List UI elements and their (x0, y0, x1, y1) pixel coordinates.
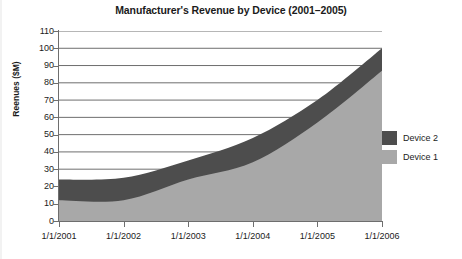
y-axis-tick-label: 30 (28, 165, 54, 174)
y-axis-tick-mark (53, 66, 59, 67)
plot-area (59, 31, 382, 221)
x-axis-tick-mark (59, 222, 60, 227)
chart-title: Manufacturer's Revenue by Device (2001–2… (0, 4, 462, 16)
y-axis-tick-mark (53, 169, 59, 170)
y-axis-tick-label: 40 (28, 147, 54, 156)
y-axis-tick-mark (53, 135, 59, 136)
legend-label: Device 2 (403, 133, 438, 143)
x-axis-tick-mark (253, 222, 254, 227)
y-axis-tick-mark (53, 186, 59, 187)
y-axis-tick-mark (53, 100, 59, 101)
legend-swatch-icon (382, 150, 397, 164)
x-axis-tick-mark (124, 222, 125, 227)
x-axis-tick-label: 1/1/2005 (285, 231, 349, 241)
legend-swatch-icon (382, 131, 397, 145)
x-axis-tick-label: 1/1/2001 (27, 231, 91, 241)
y-axis-tick-mark (53, 152, 59, 153)
y-axis-tick-mark (53, 48, 59, 49)
y-axis-tick-label: 100 (28, 44, 54, 53)
x-axis-tick-mark (382, 222, 383, 227)
x-axis-tick-label: 1/1/2002 (92, 231, 156, 241)
y-axis-tick-mark (53, 117, 59, 118)
y-axis-title: Reenues ($M) (11, 29, 21, 149)
y-axis-tick-labels: 0102030405060708090100110 (26, 0, 54, 259)
area-series-svg (59, 31, 382, 221)
y-axis-tick-mark (53, 204, 59, 205)
y-axis-tick-label: 20 (28, 182, 54, 191)
x-axis-tick-mark (317, 222, 318, 227)
y-axis-tick-label: 0 (28, 217, 54, 226)
revenue-area-chart: Manufacturer's Revenue by Device (2001–2… (0, 0, 462, 259)
x-axis-line (58, 221, 383, 222)
y-axis-tick-mark (53, 83, 59, 84)
y-axis-line (58, 30, 59, 222)
x-axis-tick-label: 1/1/2003 (156, 231, 220, 241)
page-edge (0, 0, 2, 259)
y-axis-tick-label: 50 (28, 130, 54, 139)
y-axis-tick-label: 90 (28, 61, 54, 70)
y-axis-tick-label: 110 (28, 27, 54, 36)
x-axis-tick-label: 1/1/2004 (221, 231, 285, 241)
legend-item[interactable]: Device 1 (382, 147, 456, 166)
legend-label: Device 1 (403, 152, 438, 162)
y-axis-tick-label: 80 (28, 78, 54, 87)
y-axis-tick-label: 70 (28, 96, 54, 105)
y-axis-tick-mark (53, 31, 59, 32)
chart-legend: Device 2Device 1 (382, 128, 456, 166)
legend-item[interactable]: Device 2 (382, 128, 456, 147)
y-axis-tick-label: 10 (28, 199, 54, 208)
y-axis-tick-label: 60 (28, 113, 54, 122)
x-axis-tick-mark (188, 222, 189, 227)
x-axis-tick-label: 1/1/2006 (350, 231, 414, 241)
